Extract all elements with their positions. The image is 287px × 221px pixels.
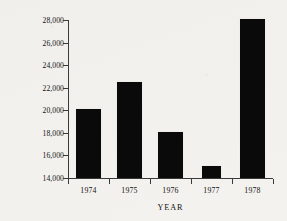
- x-tick-mark: [191, 179, 192, 184]
- y-tick-mark: [63, 110, 69, 111]
- y-tick-mark: [63, 155, 69, 156]
- x-tick-label: 1974: [80, 186, 96, 195]
- y-tick-label: 26,000: [26, 38, 64, 47]
- bar-1977: [202, 166, 221, 178]
- bar-1978: [240, 19, 265, 178]
- x-tick-mark: [232, 179, 233, 184]
- x-tick-mark: [273, 179, 274, 184]
- x-axis-line: [68, 178, 273, 179]
- bar-chart-figure: INCOME, IN DOLLARS 14,00016,00018,00020,…: [0, 0, 287, 221]
- x-tick-mark: [109, 179, 110, 184]
- y-axis-tick-labels: 14,00016,00018,00020,00022,00024,00026,0…: [22, 0, 64, 221]
- y-tick-label: 16,000: [26, 151, 64, 160]
- x-tick-label: 1977: [203, 186, 219, 195]
- y-tick-mark: [63, 20, 69, 21]
- y-tick-mark: [63, 88, 69, 89]
- y-tick-label: 22,000: [26, 83, 64, 92]
- y-tick-label: 18,000: [26, 128, 64, 137]
- bar-1976: [158, 132, 183, 178]
- y-tick-label: 28,000: [26, 16, 64, 25]
- x-tick-mark: [150, 179, 151, 184]
- y-tick-mark: [63, 133, 69, 134]
- y-tick-label: 20,000: [26, 106, 64, 115]
- x-tick-label: 1978: [244, 186, 260, 195]
- y-tick-mark: [63, 65, 69, 66]
- x-tick-label: 1976: [162, 186, 178, 195]
- x-tick-label: 1975: [121, 186, 137, 195]
- x-axis-title: YEAR: [68, 203, 273, 212]
- y-tick-label: 24,000: [26, 61, 64, 70]
- bar-1974: [76, 109, 101, 178]
- y-tick-label: 14,000: [26, 174, 64, 183]
- bar-1975: [117, 82, 142, 178]
- y-tick-mark: [63, 43, 69, 44]
- x-tick-mark: [68, 179, 69, 184]
